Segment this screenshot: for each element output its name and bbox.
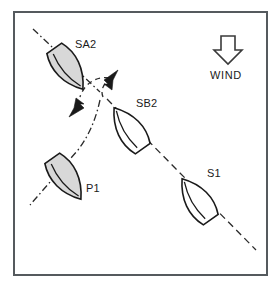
boat-label-s1: S1 [207,167,221,179]
boat-label-p1: P1 [86,182,100,194]
wind-layer [0,0,280,288]
diagram-canvas: SA2 SB2 P1 S1 WIND [0,0,280,288]
down-arrow-icon [214,36,242,64]
wind-label: WIND [210,69,242,81]
boat-label-sb2: SB2 [136,97,157,109]
boat-label-sa2: SA2 [75,38,96,50]
